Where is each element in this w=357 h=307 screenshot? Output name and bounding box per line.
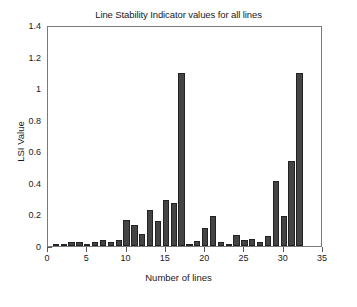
bar	[210, 216, 216, 246]
x-axis-tick-label: 10	[106, 253, 146, 263]
bar	[171, 203, 177, 246]
bar	[296, 73, 302, 246]
bar	[218, 242, 224, 246]
bar	[131, 225, 137, 246]
x-axis-tick	[86, 247, 87, 252]
bar	[116, 240, 122, 246]
x-axis-label: Number of lines	[0, 272, 357, 283]
y-axis-tick-label: 0.4	[5, 179, 41, 189]
bar	[226, 244, 232, 246]
x-axis-tick	[322, 247, 323, 252]
bar	[249, 239, 255, 246]
bar	[155, 221, 161, 246]
bar	[257, 242, 263, 246]
bar	[194, 241, 200, 246]
x-axis-tick-label: 5	[66, 253, 106, 263]
x-axis-tick-label: 30	[263, 253, 303, 263]
bar	[163, 200, 169, 246]
y-axis-tick-label: 0.8	[5, 116, 41, 126]
x-axis-tick-label: 35	[302, 253, 342, 263]
bar	[147, 210, 153, 246]
bar	[108, 242, 114, 246]
x-axis-tick	[243, 247, 244, 252]
bar	[241, 240, 247, 246]
bar	[265, 236, 271, 246]
bar-series	[48, 27, 321, 246]
x-axis-tick	[126, 247, 127, 252]
x-axis-tick-label: 15	[145, 253, 185, 263]
bar	[233, 235, 239, 246]
bar	[53, 244, 59, 246]
y-axis-tick-label: 0	[5, 242, 41, 252]
y-axis-tick-label: 0.6	[5, 147, 41, 157]
bar	[84, 244, 90, 246]
bar	[139, 234, 145, 246]
x-axis-tick-label: 25	[223, 253, 263, 263]
y-axis-tick-label: 0.2	[5, 210, 41, 220]
y-axis-tick-label: 1	[5, 84, 41, 94]
plot-area	[47, 26, 322, 247]
bar	[123, 220, 129, 246]
bar	[76, 242, 82, 246]
bar	[202, 228, 208, 246]
bar	[186, 244, 192, 246]
chart-figure: Line Stability Indicator values for all …	[0, 0, 357, 307]
bar	[288, 161, 294, 246]
y-axis-tick-label: 1.2	[5, 53, 41, 63]
x-axis-tick	[165, 247, 166, 252]
bar	[61, 244, 67, 246]
x-axis-tick	[283, 247, 284, 252]
x-axis-tick-label: 20	[184, 253, 224, 263]
bar	[68, 242, 74, 246]
x-axis-tick	[204, 247, 205, 252]
y-axis-label: LSI Value	[15, 97, 26, 187]
bar	[178, 73, 184, 246]
bar	[281, 216, 287, 246]
y-axis-tick-label: 1.4	[5, 21, 41, 31]
x-axis-tick	[47, 247, 48, 252]
bar	[100, 240, 106, 246]
bar	[273, 181, 279, 246]
x-axis-tick-label: 0	[27, 253, 67, 263]
bar	[92, 242, 98, 246]
chart-title: Line Stability Indicator values for all …	[0, 9, 357, 20]
